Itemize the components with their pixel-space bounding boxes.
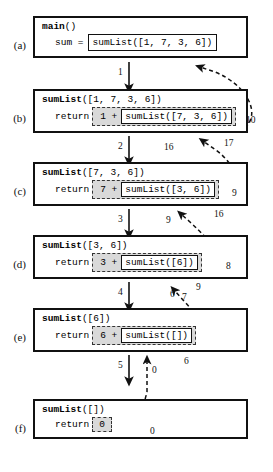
frame-fn-args-e: ([6]) <box>82 313 111 324</box>
row-label-d: (d) <box>0 259 26 270</box>
return-keyword-e: return <box>55 330 89 341</box>
call-expression-e: sumList([]) <box>121 328 192 343</box>
return-value-label-d-c: 9 <box>196 283 201 293</box>
return-step-label-d-c: 8 <box>226 262 231 272</box>
return-value-f: 0 <box>92 417 112 432</box>
operand-c: 7 + <box>96 183 121 196</box>
return-keyword-c: return <box>55 184 89 195</box>
frame-fn-args-d: ([3, 6]) <box>82 240 128 251</box>
call-step-label-b-c: 2 <box>118 142 123 152</box>
row-label-f: (f) <box>0 423 26 434</box>
row-label-c: (c) <box>0 186 26 197</box>
call-step-label-e-f: 5 <box>118 361 123 371</box>
return-keyword-d: return <box>55 257 89 268</box>
return-value-label-b-a: 17 <box>224 139 234 149</box>
call-expression-b: sumList([7, 3, 6]) <box>121 109 232 124</box>
frame-fn-args-f: ([]) <box>82 404 105 415</box>
return-expression-d: 3 + sumList([6]) <box>92 253 202 272</box>
operand-e: 6 + <box>96 329 121 342</box>
frame-fn-name-e: sumList <box>42 313 82 324</box>
call-step-label-a-b: 1 <box>118 68 123 78</box>
frame-fn-args-b: ([1, 7, 3, 6]) <box>82 94 162 105</box>
frame-header-e: sumList([6]) <box>35 310 246 324</box>
return-step-label-f-e: 0 <box>152 366 157 376</box>
operand-d: 3 + <box>96 256 121 269</box>
return-step-midlabel-d-c: 9 <box>166 216 171 226</box>
call-expression-c: sumList([3, 6]) <box>121 182 215 197</box>
return-keyword-b: return <box>55 111 89 122</box>
frame-body-b: return 1 + sumList([7, 3, 6]) <box>35 105 246 131</box>
frame-header-c: sumList([7, 3, 6]) <box>35 164 246 178</box>
return-expression-e: 6 + sumList([]) <box>92 326 196 345</box>
stack-frame-c: sumList([7, 3, 6]) return 7 + sumList([3… <box>33 162 248 206</box>
frame-body-f: return 0 <box>35 415 246 437</box>
return-expression-b: 1 + sumList([7, 3, 6]) <box>92 107 236 126</box>
return-step-label-b-a: 10 <box>246 116 256 126</box>
call-step-label-c-d: 3 <box>118 215 123 225</box>
row-label-a: (a) <box>0 40 26 51</box>
frame-fn-name-b: sumList <box>42 94 82 105</box>
return-value-label-c-b: 16 <box>214 210 224 220</box>
stack-frame-e: sumList([6]) return 6 + sumList([]) <box>33 308 248 352</box>
stack-frame-d: sumList([3, 6]) return 3 + sumList([6]) <box>33 235 248 279</box>
return-value-label-e-d: 6 <box>184 357 189 367</box>
frame-body-a: sum = sumList([1, 7, 3, 6]) <box>35 32 246 56</box>
return-step-label-c-b: 9 <box>232 189 237 199</box>
frame-body-c: return 7 + sumList([3, 6]) <box>35 178 246 204</box>
return-value-label-f-e: 0 <box>150 427 155 437</box>
frame-header-b: sumList([1, 7, 3, 6]) <box>35 91 246 105</box>
operand-b: 1 + <box>96 110 121 123</box>
call-step-label-d-e: 4 <box>118 288 123 298</box>
frame-header-a: main() <box>35 18 246 32</box>
row-label-e: (e) <box>0 332 26 343</box>
stack-frame-a: main() sum = sumList([1, 7, 3, 6]) <box>33 16 248 58</box>
frame-header-f: sumList([]) <box>35 401 246 415</box>
call-expression-a: sumList([1, 7, 3, 6]) <box>88 34 218 51</box>
frame-fn-args-a: () <box>65 21 76 32</box>
return-keyword-f: return <box>55 419 89 430</box>
return-step-label-e-d: 7 <box>182 293 187 303</box>
return-step-midlabel-c-b: 16 <box>164 143 174 153</box>
frame-body-e: return 6 + sumList([]) <box>35 324 246 350</box>
recursion-trace-diagram: (a) (b) (c) (d) (e) (f) main() sum = sum… <box>0 0 273 472</box>
frame-fn-name-c: sumList <box>42 167 82 178</box>
return-expression-c: 7 + sumList([3, 6]) <box>92 180 219 199</box>
call-expression-d: sumList([6]) <box>121 255 197 270</box>
frame-fn-name-f: sumList <box>42 404 82 415</box>
frame-fn-args-c: ([7, 3, 6]) <box>82 167 145 178</box>
stack-frame-f: sumList([]) return 0 <box>33 399 248 439</box>
frame-header-d: sumList([3, 6]) <box>35 237 246 251</box>
frame-body-d: return 3 + sumList([6]) <box>35 251 246 277</box>
return-step-midlabel-e-d: 6 <box>170 290 175 300</box>
assign-keyword-a: sum = <box>55 37 84 48</box>
row-label-b: (b) <box>0 113 26 124</box>
frame-fn-name-a: main <box>42 21 65 32</box>
stack-frame-b: sumList([1, 7, 3, 6]) return 1 + sumList… <box>33 89 248 133</box>
frame-fn-name-d: sumList <box>42 240 82 251</box>
